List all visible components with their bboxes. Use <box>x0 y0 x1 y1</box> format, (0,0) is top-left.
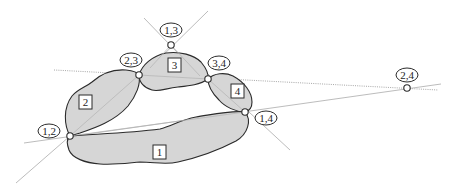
point-3-4 <box>205 76 211 82</box>
point-1-4 <box>242 109 248 115</box>
label-2-3: 2,3 <box>120 53 142 67</box>
label-1-2: 1,2 <box>38 124 60 138</box>
point-2-4 <box>404 85 410 91</box>
label-1-2-text: 1,2 <box>42 125 56 137</box>
region-4-label-text: 4 <box>235 85 241 97</box>
region-4-label: 4 <box>231 84 244 98</box>
convex-regions-diagram: 1 2 3 4 1,3 2,3 <box>0 0 456 192</box>
point-1-2 <box>67 133 73 139</box>
region-2 <box>65 70 139 136</box>
label-1-3-text: 1,3 <box>164 24 178 36</box>
label-1-4: 1,4 <box>255 111 277 125</box>
region-2-label: 2 <box>79 95 92 109</box>
label-1-3: 1,3 <box>160 23 182 37</box>
region-1-label: 1 <box>153 145 166 159</box>
point-2-3 <box>136 72 142 78</box>
label-3-4: 3,4 <box>208 56 230 70</box>
label-3-4-text: 3,4 <box>212 57 226 69</box>
region-4 <box>208 74 252 112</box>
region-3-label-text: 3 <box>172 59 178 71</box>
region-3-label: 3 <box>168 58 181 72</box>
region-1-label-text: 1 <box>157 146 163 158</box>
region-2-label-text: 2 <box>83 96 89 108</box>
label-2-3-text: 2,3 <box>124 54 138 66</box>
point-1-3 <box>168 42 174 48</box>
label-2-4: 2,4 <box>396 68 418 82</box>
label-2-4-text: 2,4 <box>400 69 414 81</box>
label-1-4-text: 1,4 <box>259 112 273 124</box>
